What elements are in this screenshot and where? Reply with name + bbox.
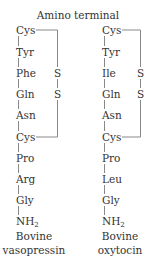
residue: Leu	[102, 173, 122, 185]
terminal-subscript: 2	[34, 221, 38, 229]
residue: Pro	[16, 152, 34, 164]
residue: Gly	[16, 194, 34, 206]
residue: Asn	[16, 109, 36, 121]
residue: Cys	[102, 24, 121, 36]
residue: Gln	[102, 88, 121, 100]
residue: Phe	[16, 67, 36, 79]
disulfide-bridge	[36, 30, 58, 67]
residue: Cys	[16, 131, 35, 143]
terminal-label: NH	[16, 215, 34, 227]
caption-line1: Bovine	[86, 230, 154, 242]
caption-line2: vasopressin	[0, 244, 68, 256]
disulfide-bridge	[122, 100, 141, 137]
residue: Cys	[16, 24, 35, 36]
residue: Tyr	[16, 46, 34, 58]
residue: Gly	[102, 194, 120, 206]
sulfur-atom: S	[137, 88, 144, 100]
residue: Gln	[16, 88, 35, 100]
terminal-label: NH	[102, 215, 120, 227]
disulfide-bridge	[36, 100, 58, 137]
residue: Asn	[102, 109, 122, 121]
residue: Tyr	[102, 46, 120, 58]
amide-terminal: NH2	[16, 215, 39, 227]
caption-line2: oxytocin	[86, 244, 154, 256]
caption-line1: Bovine	[0, 230, 68, 242]
residue: Ile	[102, 67, 116, 79]
disulfide-bridge	[122, 30, 141, 67]
residue: Pro	[102, 152, 120, 164]
amide-terminal: NH2	[102, 215, 125, 227]
sulfur-atom: S	[137, 67, 144, 79]
residue: Cys	[102, 131, 121, 143]
terminal-subscript: 2	[120, 221, 124, 229]
residue: Arg	[16, 173, 35, 185]
sulfur-atom: S	[54, 67, 61, 79]
sulfur-atom: S	[54, 88, 61, 100]
